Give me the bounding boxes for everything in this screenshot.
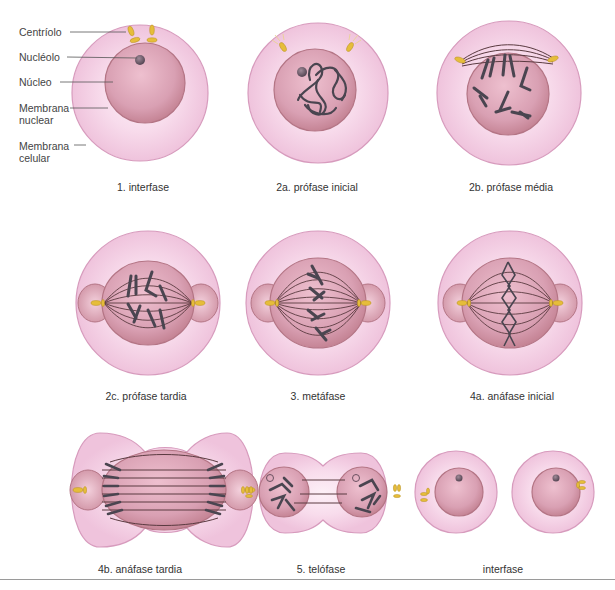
stage-1-interfase <box>60 25 208 161</box>
caption-stage-2c: 2c. prófase tardia <box>105 390 186 402</box>
label-nucleo: Núcleo <box>19 76 52 88</box>
label-membrana-celular-line2: celular <box>19 152 50 164</box>
stage-2c-profase-tardia <box>76 231 220 375</box>
stage-2a-profase-inicial <box>248 23 388 163</box>
stage-6-interfase-daughters <box>415 451 594 533</box>
label-membrana-nuclear-line1: Membrana <box>19 102 69 114</box>
stage-4b-anafase-tardia <box>55 433 258 550</box>
stage-4a-anafase-inicial <box>438 231 582 375</box>
label-nucleolo: Nucléolo <box>19 51 60 63</box>
nucleolus <box>135 55 145 65</box>
label-membrana-nuclear: Membrana nuclear <box>19 102 69 126</box>
label-membrana-celular-line1: Membrana <box>19 140 69 152</box>
label-centriolo: Centríolo <box>19 26 62 38</box>
caption-stage-6: interfase <box>483 563 523 575</box>
stage-5-telofase <box>245 453 400 533</box>
caption-stage-5: 5. telófase <box>297 563 345 575</box>
bottom-divider <box>0 579 615 580</box>
nucleus <box>105 43 185 123</box>
mitosis-diagram: Centríolo Nucléolo Núcleo Membrana nucle… <box>0 0 615 590</box>
stage-3-metafase <box>246 231 390 375</box>
caption-stage-4b: 4b. anáfase tardia <box>98 563 182 575</box>
label-membrana-nuclear-line2: nuclear <box>19 114 53 126</box>
caption-stage-2a: 2a. prófase inicial <box>276 181 358 193</box>
caption-stage-1: 1. interfase <box>117 181 169 193</box>
stage-2b-profase-media <box>437 21 581 165</box>
caption-stage-2b: 2b. prófase média <box>469 181 553 193</box>
caption-stage-4a: 4a. anáfase inicial <box>470 390 554 402</box>
caption-stage-3: 3. metáfase <box>291 390 346 402</box>
label-membrana-celular: Membrana celular <box>19 140 69 164</box>
